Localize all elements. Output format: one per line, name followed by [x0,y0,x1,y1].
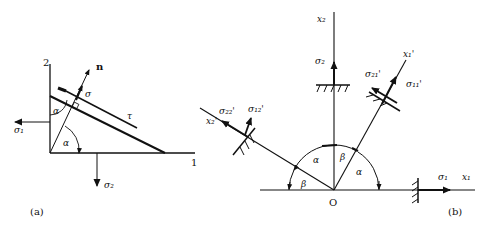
normal-n-label: n [96,61,104,72]
panel-a: 2 1 n σ τ α α σ₁ σ₂ (a) [14,57,197,217]
sigma-22-prime-arrow [222,121,248,137]
angle-alpha-right-label: α [356,167,362,177]
axis-x1-label: x₁ [462,172,471,182]
panel-b: x₂ x₁ x₁' x₂' O (b) σ₂ σ₁ [200,12,475,217]
angle-beta-right-label: β [339,152,345,162]
angle-beta-left-label: β [300,179,306,189]
sigma-1-label: σ₁ [438,172,448,182]
sigma-21-prime-label: σ₂₁' [365,69,381,79]
sigma-2-label: σ₂ [315,56,325,66]
axis-x1-prime-label: x₁' [403,49,414,59]
angle-alpha-left-label: α [313,155,319,165]
shear-stress-label: τ [127,111,133,121]
angle-alpha-top-label: α [53,106,59,116]
panel-b-label: (b) [448,206,462,217]
axis-1-label: 1 [191,157,197,168]
x2-prime-support-hatch [233,128,255,155]
axis-x2-prime-label: x₂' [206,116,217,126]
axis-2-label: 2 [43,57,49,68]
shear-arrow-tip [58,88,66,91]
origin-label: O [329,197,337,208]
axis-x2-prime-line [200,108,334,190]
x2-support-hatch [316,85,350,92]
panel-a-label: (a) [30,206,44,217]
stress-transformation-figure: 2 1 n σ τ α α σ₁ σ₂ (a) x₂ x₁ x₁' x₂' O … [0,0,485,232]
angle-alpha-bottom-label: α [63,138,69,148]
sigma-11-prime-label: σ₁₁' [406,79,422,89]
sigma-11-prime-arrow [382,77,396,104]
sigma-12-prime-label: σ₁₂' [248,104,264,114]
sigma-2-label: σ₂ [104,180,114,190]
sigma-22-prime-label: σ₂₂' [219,106,235,116]
normal-stress-label: σ [85,89,92,99]
sigma-12-prime-arrow [245,118,251,135]
sigma-1-label: σ₁ [14,125,24,135]
axis-x2-label: x₂ [317,14,326,24]
